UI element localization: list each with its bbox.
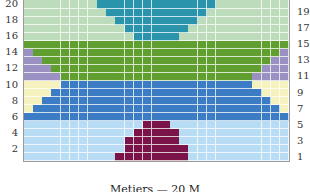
right-row-label: 3 (297, 136, 303, 146)
grid-cell (280, 89, 290, 98)
grid-cell (280, 129, 290, 138)
grid-cell (280, 0, 290, 9)
grid-cell (280, 32, 290, 41)
block-grid-diagram (23, 0, 290, 162)
right-row-label: 19 (297, 7, 310, 17)
left-row-label: 6 (2, 112, 18, 122)
left-row-label: 10 (2, 80, 18, 90)
left-row-label: 4 (2, 128, 18, 138)
right-row-label: 13 (297, 55, 310, 65)
right-row-label: 11 (297, 71, 310, 81)
grid-cell (280, 81, 290, 90)
grid-cell (280, 105, 290, 114)
grid-cell (280, 8, 290, 17)
left-row-label: 18 (2, 15, 18, 25)
grid-cell (280, 48, 290, 57)
right-row-label: 9 (297, 88, 303, 98)
left-row-label: 8 (2, 96, 18, 106)
grid-cell (280, 40, 290, 49)
right-row-label: 15 (297, 39, 310, 49)
grid-cell (280, 24, 290, 33)
grid-cell (280, 137, 290, 146)
grid-cell (280, 97, 290, 106)
grid-cell (280, 16, 290, 25)
left-row-label: 12 (2, 63, 18, 73)
right-row-label: 7 (297, 104, 303, 114)
right-row-label: 17 (297, 23, 310, 33)
left-row-label: 14 (2, 47, 18, 57)
figure-caption: Metiers — 20 M (0, 183, 310, 192)
left-row-label: 2 (2, 144, 18, 154)
grid-cell (280, 72, 290, 81)
right-row-label: 1 (297, 152, 303, 162)
grid-cell (280, 113, 290, 122)
grid-cell (280, 153, 290, 162)
left-row-label: 16 (2, 31, 18, 41)
left-row-label: 20 (2, 0, 18, 9)
grid-cell (280, 64, 290, 73)
grid-cell (280, 121, 290, 130)
grid-cell (280, 145, 290, 154)
grid-cell (280, 56, 290, 65)
right-row-label: 5 (297, 120, 303, 130)
